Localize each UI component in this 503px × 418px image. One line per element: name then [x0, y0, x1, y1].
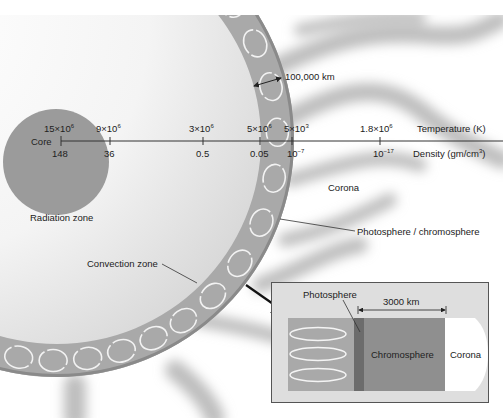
- inset-panel: [272, 283, 489, 403]
- scale-100000-label: 100,000 km: [285, 71, 335, 82]
- density-label-radiation: 36: [104, 148, 115, 159]
- density-label-photosphere: 10−7: [287, 148, 304, 159]
- inset-corona-label: Corona: [450, 349, 481, 360]
- temp-label-mid: 3×106: [189, 123, 214, 134]
- density-label-corona: 10−17: [373, 148, 394, 159]
- inset-photosphere-label: Photosphere: [303, 289, 357, 300]
- photosphere-chromosphere-label: Photosphere / chromosphere: [357, 226, 480, 237]
- temp-label-radiation: 9×106: [96, 123, 121, 134]
- density-label-convection-base: 0.05: [250, 148, 269, 159]
- density-label-mid: 0.5: [196, 148, 209, 159]
- temp-label-core: 15×106: [44, 123, 74, 134]
- temp-label-convection-base: 5×106: [247, 123, 272, 134]
- density-axis-label: Density (gm/cm3): [413, 148, 486, 159]
- temperature-axis-label: Temperature (K): [417, 123, 486, 134]
- radiation-zone-label: Radiation zone: [30, 212, 93, 223]
- density-label-core: 148: [52, 148, 68, 159]
- corona-label: Corona: [328, 182, 359, 193]
- core-label: Core: [31, 136, 52, 147]
- temp-label-photosphere: 5×103: [284, 123, 309, 134]
- temp-label-corona: 1.8×106: [360, 123, 393, 134]
- convection-zone-label: Convection zone: [87, 258, 158, 269]
- sun-structure-diagram: 15×106 9×106 3×106 5×106 5×103 1.8×106 T…: [0, 0, 503, 418]
- inset-chromosphere-label: Chromosphere: [371, 349, 434, 360]
- inset-scale-3000-label: 3000 km: [383, 296, 419, 307]
